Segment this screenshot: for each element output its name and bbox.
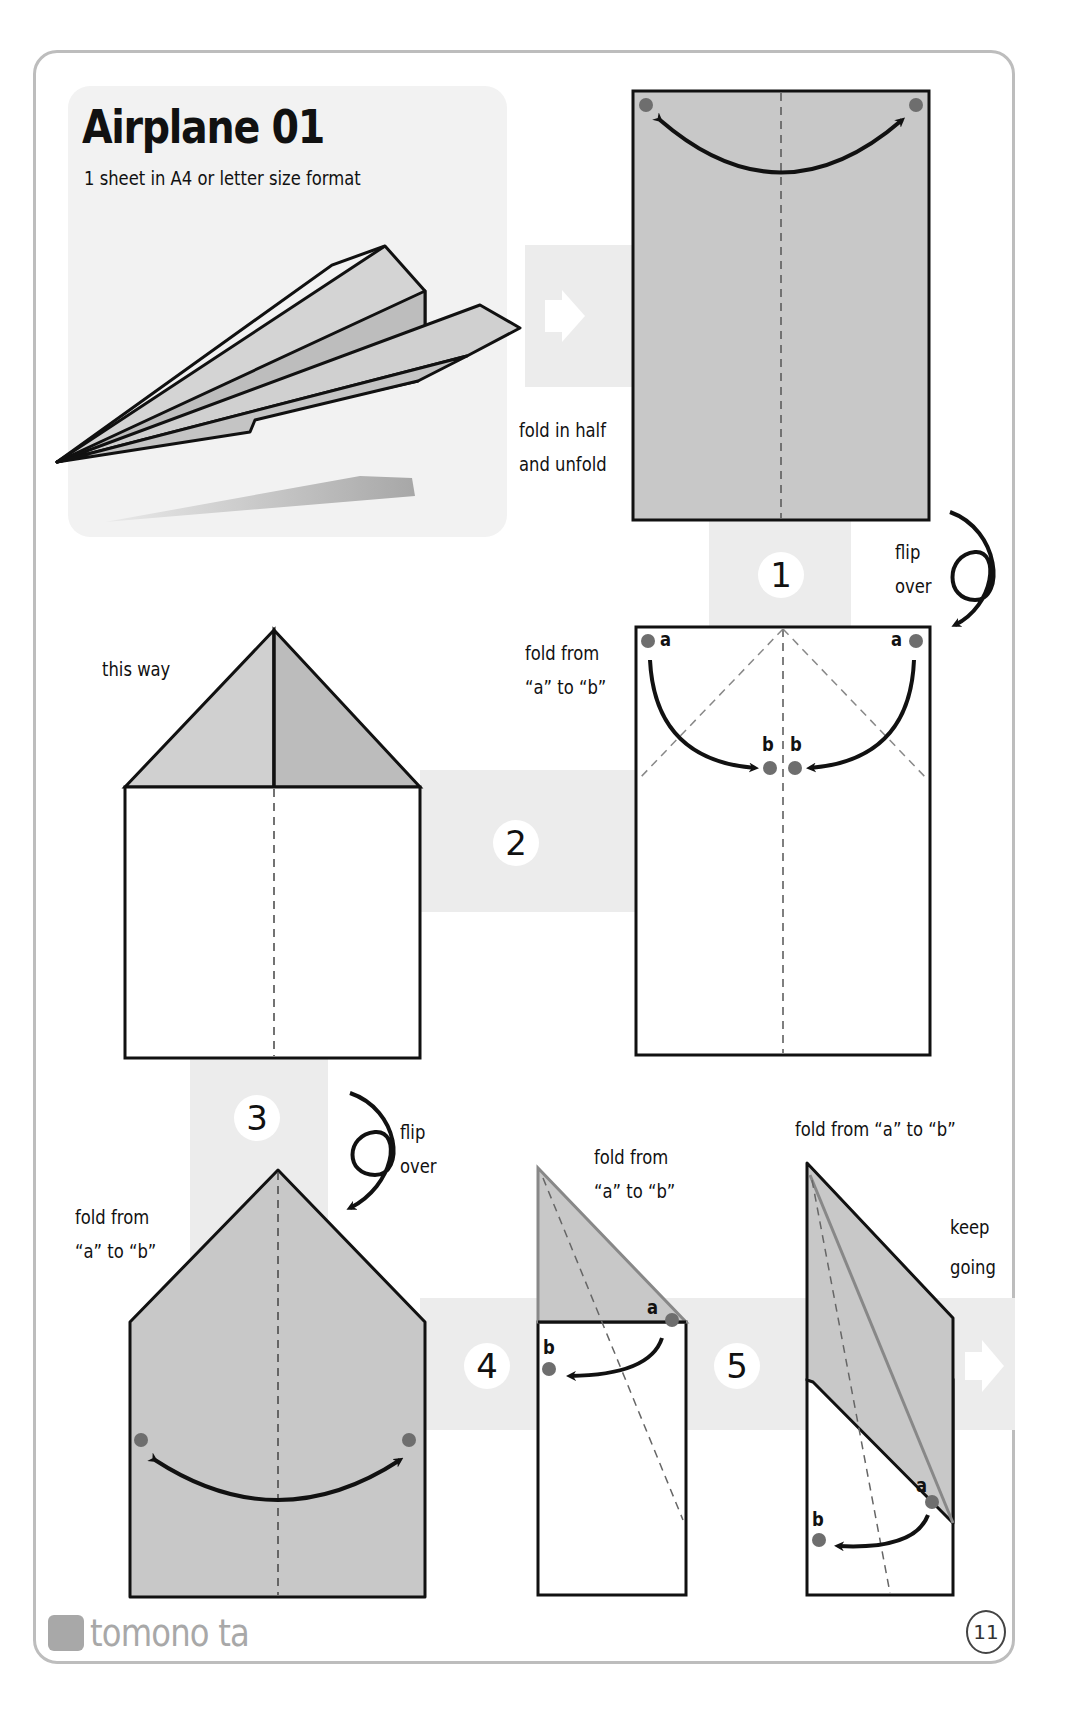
step-3-flip-2: over — [400, 1149, 437, 1183]
band-intro-arrow — [525, 245, 635, 387]
point-label-b-left: b — [762, 727, 774, 761]
step-number-3: 3 — [234, 1095, 280, 1141]
step-1-instruction-1: fold from — [525, 636, 599, 670]
step-5-continue-2: going — [950, 1250, 996, 1284]
step-1-flip-1: flip — [895, 535, 920, 569]
step-1-flip-2: over — [895, 569, 932, 603]
step-number-1: 1 — [758, 552, 804, 598]
brand-name: tomono ta — [90, 1611, 249, 1655]
step-3-instruction-1: fold from — [75, 1200, 149, 1234]
step-4-instruction-2: “a” to “b” — [594, 1174, 675, 1208]
step-number-4: 4 — [464, 1343, 510, 1389]
page-subtitle: 1 sheet in A4 or letter size format — [84, 166, 361, 190]
page-title: Airplane 01 — [82, 100, 324, 154]
step-3-flip-1: flip — [400, 1115, 425, 1149]
step-5-point-b: b — [812, 1502, 824, 1536]
step-4-instruction-1: fold from — [594, 1140, 668, 1174]
point-label-b-right: b — [790, 727, 802, 761]
step-4-point-b: b — [543, 1330, 555, 1364]
brand-logo: tomono ta — [48, 1608, 277, 1658]
point-label-a-left: a — [660, 622, 671, 656]
step-2-hint: this way — [102, 652, 170, 686]
band-step-3 — [190, 1058, 328, 1258]
intro-instruction-1: fold in half — [519, 413, 606, 447]
step-4-point-a: a — [647, 1290, 658, 1324]
page-number: 11 — [966, 1610, 1006, 1654]
point-label-a-right: a — [891, 622, 902, 656]
step-number-2: 2 — [493, 820, 539, 866]
step-1-instruction-2: “a” to “b” — [525, 670, 606, 704]
step-5-instruction: fold from “a” to “b” — [795, 1112, 956, 1146]
step-5-continue-1: keep — [950, 1210, 990, 1244]
brand-logo-icon — [48, 1615, 84, 1651]
step-5-point-a: a — [916, 1468, 927, 1502]
step-number-5: 5 — [714, 1343, 760, 1389]
intro-instruction-2: and unfold — [519, 447, 607, 481]
step-3-instruction-2: “a” to “b” — [75, 1234, 156, 1268]
